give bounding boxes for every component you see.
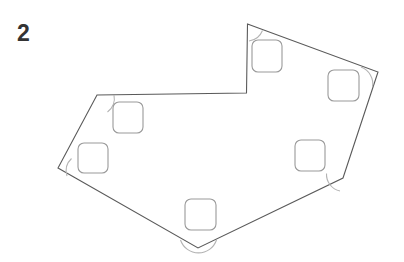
inner-square-left xyxy=(78,143,108,173)
polygon-outline xyxy=(58,24,378,248)
polygon-outline-group xyxy=(58,24,378,248)
angle-arc-group xyxy=(66,31,373,253)
inner-square-right xyxy=(295,140,325,171)
figure-number-label: 2 xyxy=(17,22,30,45)
polygon-figure-svg xyxy=(0,0,404,262)
inner-squares-group xyxy=(78,40,359,230)
angle-arc-top-peak xyxy=(249,31,263,42)
inner-square-upper-left xyxy=(113,102,143,133)
inner-square-top xyxy=(252,40,282,72)
figure-canvas: 2 xyxy=(0,0,404,262)
inner-square-upper-right xyxy=(328,70,359,101)
inner-square-bottom xyxy=(185,199,216,230)
